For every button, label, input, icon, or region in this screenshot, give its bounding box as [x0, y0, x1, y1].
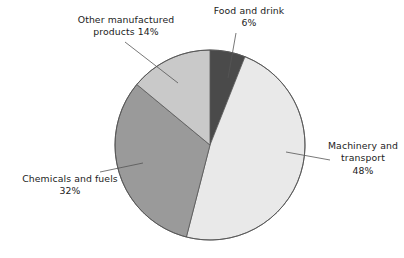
pie-label-food-and-drink: Food and drink 6%: [193, 5, 305, 30]
pie-label-other-manufactured-products: Other manufactured products 14%: [60, 14, 192, 39]
pie-label-machinery-and-transport: Machinery and transport 48%: [322, 140, 404, 177]
pie-label-food-line2: 6%: [193, 17, 305, 29]
pie-label-chemicals-line2: 32%: [2, 185, 138, 197]
pie-label-other-line1: Other manufactured: [60, 14, 192, 26]
pie-label-chemicals-and-fuels: Chemicals and fuels 32%: [2, 173, 138, 198]
pie-label-machinery-line1: Machinery and: [322, 140, 404, 152]
pie-label-other-line2: products 14%: [60, 26, 192, 38]
pie-chart: Other manufactured products 14% Food and…: [0, 0, 404, 258]
pie-label-machinery-line2: transport: [322, 152, 404, 164]
pie-label-chemicals-line1: Chemicals and fuels: [2, 173, 138, 185]
pie-label-machinery-line3: 48%: [322, 165, 404, 177]
pie-label-food-line1: Food and drink: [193, 5, 305, 17]
